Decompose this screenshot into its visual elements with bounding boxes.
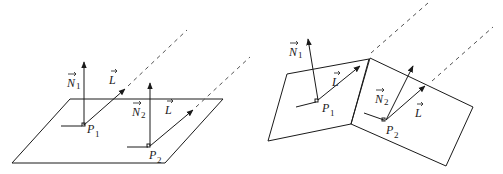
label-p1: P 1 bbox=[321, 101, 335, 118]
label-p1: P 1 bbox=[86, 122, 100, 139]
label-n1: N 1 bbox=[66, 72, 81, 91]
svg-text:2: 2 bbox=[394, 130, 399, 140]
right-facet bbox=[351, 58, 473, 166]
svg-text:1: 1 bbox=[298, 50, 303, 60]
p2-tangent-line bbox=[364, 113, 384, 120]
label-n2: N 2 bbox=[374, 88, 389, 107]
svg-text:N: N bbox=[288, 45, 298, 59]
l2-light-ray-dashed bbox=[432, 27, 493, 81]
svg-text:2: 2 bbox=[157, 155, 162, 165]
flat-plane-diagram: N 1 L P 1 N 2 L P 2 bbox=[12, 30, 250, 165]
svg-text:P: P bbox=[321, 101, 330, 115]
label-l2: L bbox=[164, 99, 173, 117]
svg-text:2: 2 bbox=[384, 97, 389, 107]
label-n2: N 2 bbox=[131, 101, 146, 120]
n2-normal-arrow bbox=[386, 66, 413, 120]
svg-text:P: P bbox=[385, 123, 394, 137]
l1-light-arrow bbox=[84, 89, 125, 125]
l1-light-arrow bbox=[318, 66, 360, 100]
svg-text:1: 1 bbox=[330, 108, 335, 118]
label-p2: P 2 bbox=[385, 123, 399, 140]
label-l2: L bbox=[414, 102, 423, 120]
label-p2: P 2 bbox=[148, 148, 162, 165]
svg-text:1: 1 bbox=[76, 81, 81, 91]
svg-text:L: L bbox=[331, 75, 339, 89]
bent-surface-diagram: N 1 L P 1 N 2 L P 2 bbox=[268, 3, 493, 166]
svg-text:2: 2 bbox=[141, 110, 146, 120]
flat-plane bbox=[12, 99, 223, 163]
label-l1: L bbox=[108, 69, 117, 87]
svg-text:L: L bbox=[414, 106, 422, 120]
lighting-diagram: N 1 L P 1 N 2 L P 2 bbox=[0, 0, 503, 174]
svg-text:1: 1 bbox=[95, 129, 100, 139]
svg-text:P: P bbox=[86, 122, 95, 136]
label-l1: L bbox=[331, 71, 340, 89]
p1-tangent-line bbox=[296, 102, 316, 107]
l1-light-ray-dashed bbox=[371, 3, 428, 53]
svg-text:L: L bbox=[108, 73, 116, 87]
svg-text:N: N bbox=[66, 76, 76, 90]
l1-light-ray-dashed bbox=[128, 30, 187, 86]
svg-text:N: N bbox=[131, 105, 141, 119]
svg-text:N: N bbox=[374, 92, 384, 106]
label-n1: N 1 bbox=[288, 41, 303, 60]
svg-text:L: L bbox=[164, 103, 172, 117]
svg-text:P: P bbox=[148, 148, 157, 162]
